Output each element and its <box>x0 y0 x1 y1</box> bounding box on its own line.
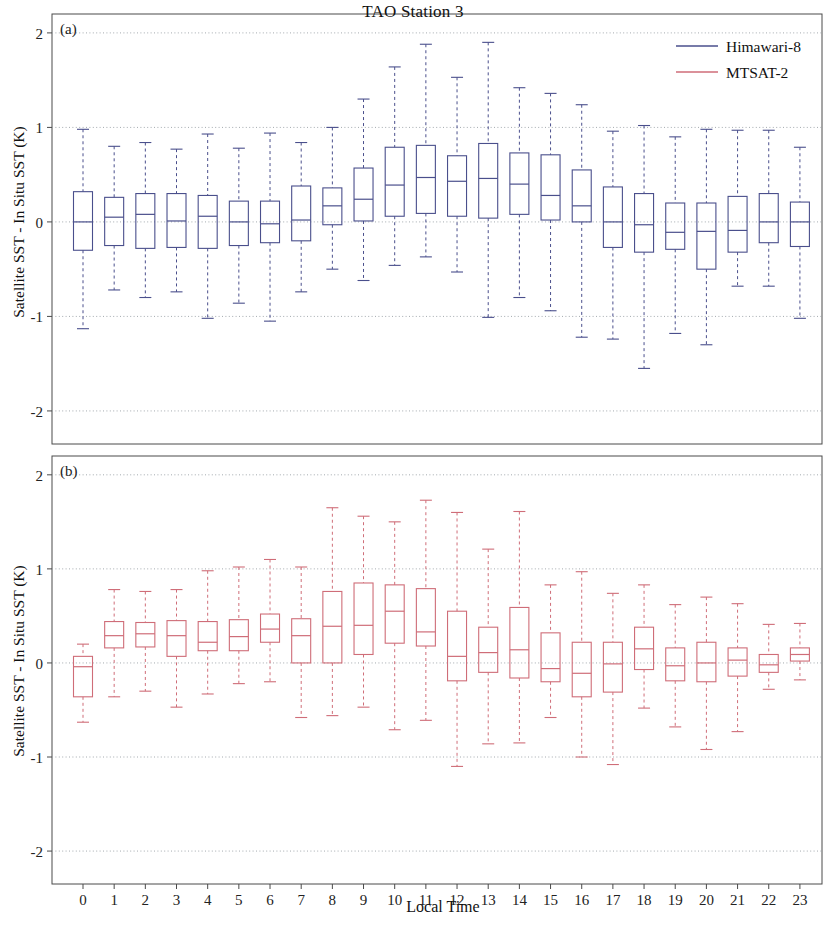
x-axis-label: Local Time <box>60 898 826 916</box>
y-axis-label-panel-a: Satellite SST - In Situ SST (K) <box>10 112 28 332</box>
y-axis-tick-label: 1 <box>36 120 44 136</box>
y-axis-tick-label: -2 <box>31 404 44 420</box>
page-title: TAO Station 3 <box>0 2 826 22</box>
plot-frame-b <box>52 456 822 884</box>
y-axis-tick-label: -2 <box>31 844 44 860</box>
y-axis-tick-label: -1 <box>31 750 44 766</box>
y-axis-tick-label: -1 <box>31 309 44 325</box>
plot-canvas: 210-1-2(a) 210-1-2(b)0123456789101112131… <box>0 0 826 925</box>
y-axis-tick-label: 0 <box>36 215 44 231</box>
y-axis-tick-label: 2 <box>36 26 44 42</box>
panel-a: 210-1-2(a) <box>31 14 823 444</box>
legend-label: Himawari-8 <box>726 38 801 55</box>
legend-label: MTSAT-2 <box>726 64 788 81</box>
y-axis-tick-label: 0 <box>36 656 44 672</box>
panel-tag: (a) <box>60 21 77 38</box>
figure-container: TAO Station 3 Satellite SST - In Situ SS… <box>0 0 826 925</box>
y-axis-tick-label: 2 <box>36 468 44 484</box>
y-axis-label-panel-b: Satellite SST - In Situ SST (K) <box>10 551 28 771</box>
panel-b: 210-1-2(b)012345678910111213141516171819… <box>31 456 823 908</box>
y-axis-tick-label: 1 <box>36 562 44 578</box>
panel-tag: (b) <box>60 463 78 480</box>
